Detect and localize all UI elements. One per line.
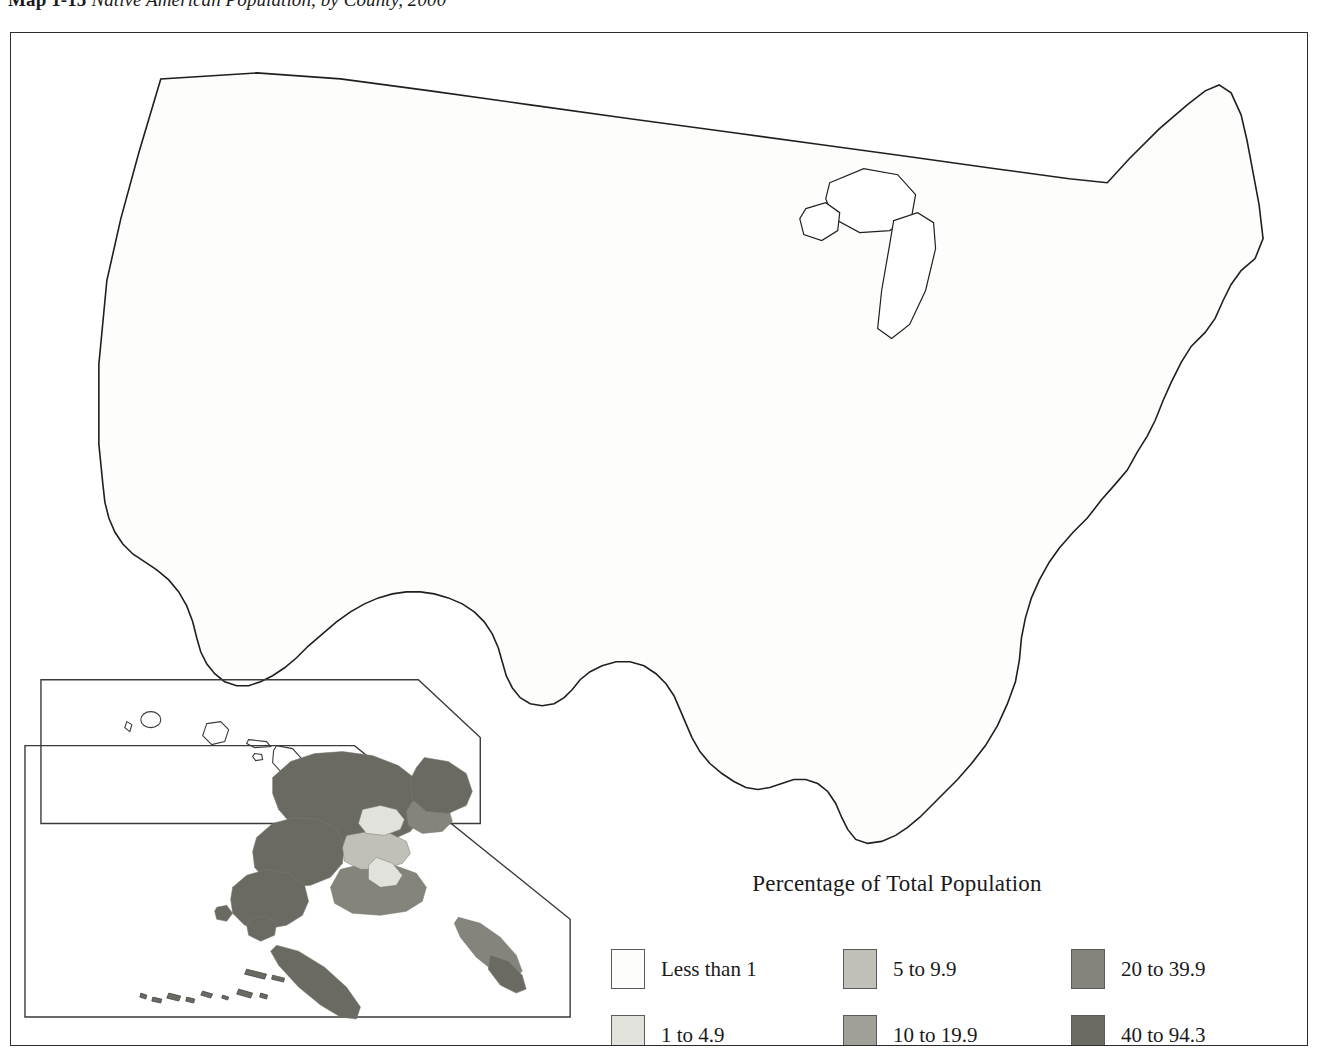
county-polygon [384, 601, 405, 623]
county-polygon [850, 118, 870, 148]
county-polygon [1141, 775, 1170, 802]
county-polygon [1139, 83, 1170, 98]
county-polygon [557, 841, 579, 862]
county-polygon [323, 684, 347, 704]
legend-entry-1-to-4-9[interactable]: 1 to 4.9 [611, 1015, 843, 1046]
county-polygon [596, 799, 620, 823]
legend-entry-20-to-39-9[interactable]: 20 to 39.9 [1071, 949, 1206, 989]
county-polygon [826, 100, 850, 118]
county-polygon [1058, 753, 1080, 788]
county-polygon [1195, 476, 1229, 506]
county-polygon [1039, 843, 1070, 867]
county-polygon [1096, 817, 1127, 840]
legend-entry-40-to-94-3[interactable]: 40 to 94.3 [1071, 1015, 1206, 1046]
county-polygon [809, 101, 832, 118]
county-polygon [1255, 684, 1275, 702]
county-polygon [948, 835, 970, 867]
county-polygon [344, 622, 362, 643]
county-polygon [753, 841, 771, 860]
county-polygon [127, 839, 149, 861]
county-polygon [1241, 620, 1260, 644]
county-polygon [1199, 680, 1228, 707]
county-polygon [283, 699, 307, 725]
county-polygon [419, 639, 440, 664]
county-polygon [1126, 782, 1146, 803]
county-polygon [497, 719, 520, 742]
county-polygon [1262, 764, 1285, 789]
county-polygon [1011, 82, 1027, 108]
county-polygon [500, 760, 518, 782]
county-polygon [169, 621, 186, 640]
county-polygon [713, 798, 735, 819]
county-polygon [695, 62, 715, 82]
county-polygon [1156, 536, 1187, 566]
county-polygon [1239, 696, 1259, 728]
county-polygon [1192, 381, 1219, 399]
county-polygon [1025, 635, 1047, 662]
county-polygon [440, 740, 461, 762]
county-polygon [537, 759, 557, 783]
county-polygon [419, 599, 444, 621]
county-polygon [1198, 434, 1223, 470]
county-polygon [1095, 54, 1132, 91]
county-polygon [1095, 85, 1123, 110]
county-polygon [1104, 115, 1120, 146]
county-polygon [1059, 820, 1082, 845]
map-plate-frame: .c0{fill:#fdfdfb} .c1{fill:#e2e2dc} .c2{… [10, 32, 1308, 1046]
alaska-inset[interactable] [25, 746, 570, 1019]
alaska-boroughs [215, 752, 527, 1019]
county-polygon [1037, 122, 1070, 145]
county-polygon [88, 103, 107, 124]
county-polygon [1105, 573, 1121, 600]
county-polygon [1137, 443, 1166, 471]
county-polygon [384, 62, 404, 84]
county-polygon [480, 682, 498, 699]
county-polygon [1081, 677, 1108, 705]
county-polygon [614, 799, 639, 823]
county-polygon [1223, 460, 1246, 477]
county-polygon [403, 698, 424, 722]
county-polygon [1231, 680, 1260, 699]
county-polygon [1039, 745, 1058, 761]
county-polygon [616, 738, 635, 764]
county-polygon [1119, 684, 1143, 703]
county-polygon [1180, 696, 1204, 723]
county-polygon [1079, 775, 1109, 809]
county-polygon [1155, 637, 1181, 671]
county-polygon [1101, 619, 1132, 647]
county-polygon [128, 798, 148, 822]
county-polygon [556, 740, 578, 761]
county-polygon [574, 721, 598, 744]
county-polygon [1264, 800, 1280, 830]
county-polygon [1164, 394, 1190, 422]
county-polygon [1223, 514, 1245, 537]
county-polygon [1121, 666, 1143, 689]
county-polygon [1193, 798, 1227, 827]
county-polygon [90, 763, 112, 782]
legend-swatch-20-to-39-9 [1071, 949, 1105, 989]
legend-entry-5-to-9-9[interactable]: 5 to 9.9 [843, 949, 1071, 989]
county-polygon [361, 641, 385, 665]
county-polygon [1081, 658, 1104, 690]
county-polygon [1188, 436, 1205, 469]
county-polygon [1024, 56, 1045, 82]
county-polygon [964, 796, 992, 824]
county-polygon [1193, 553, 1216, 590]
county-polygon [672, 80, 696, 104]
county-polygon [129, 679, 150, 699]
county-polygon [68, 340, 92, 360]
figure-caption: Native American Population, by County, 2… [91, 0, 446, 10]
legend-entry-10-to-19-9[interactable]: 10 to 19.9 [843, 1015, 1071, 1046]
county-polygon [1081, 102, 1107, 132]
county-polygon [847, 841, 869, 867]
county-polygon [675, 799, 693, 823]
county-polygon [577, 81, 599, 106]
county-polygon [1162, 759, 1188, 776]
legend-entry-less-than-1[interactable]: Less than 1 [611, 949, 843, 989]
county-polygon [146, 681, 170, 704]
county-polygon [990, 777, 1013, 800]
county-polygon [1120, 573, 1138, 604]
county-polygon [1040, 78, 1068, 111]
county-polygon [1061, 658, 1089, 678]
county-polygon [693, 798, 717, 823]
